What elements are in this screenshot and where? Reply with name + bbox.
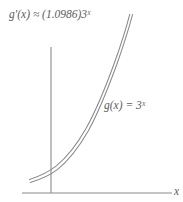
exponential-derivative-figure: g′(x) ≈ (1.0986)3ˣ g(x) = 3ˣ x — [0, 0, 183, 202]
x-axis-label-text: x — [174, 185, 179, 197]
curve-derivative — [30, 14, 130, 179]
function-equation-label: g(x) = 3ˣ — [104, 100, 145, 112]
derivative-equation-text: g′(x) ≈ (1.0986)3ˣ — [9, 8, 90, 20]
plot-canvas — [0, 0, 183, 202]
function-equation-text: g(x) = 3ˣ — [104, 99, 145, 111]
derivative-equation-label: g′(x) ≈ (1.0986)3ˣ — [9, 9, 90, 21]
x-axis-label: x — [174, 186, 179, 198]
